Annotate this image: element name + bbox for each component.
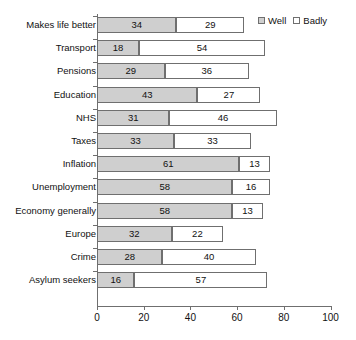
- y-axis-tick: [93, 132, 97, 133]
- chart-row: Pensions2936: [0, 63, 356, 79]
- x-axis-tick-label: 20: [138, 312, 149, 323]
- bar-segment-well: 43: [97, 87, 197, 103]
- bar-segment-badly: 22: [172, 226, 223, 242]
- chart-row: Education4327: [0, 87, 356, 103]
- category-label: Crime: [71, 249, 96, 265]
- bar-segment-badly: 54: [139, 40, 265, 56]
- x-axis-tick: [237, 306, 238, 310]
- category-label: Pensions: [57, 63, 96, 79]
- bar-segment-well: 31: [97, 110, 169, 126]
- bar-segment-well: 58: [97, 179, 232, 195]
- chart-row: Economy generally5813: [0, 203, 356, 219]
- category-label: Education: [54, 87, 96, 103]
- bar-segment-badly: 46: [169, 110, 276, 126]
- y-axis-tick: [93, 62, 97, 63]
- y-axis-line: [97, 14, 98, 306]
- bar-segment-badly: 40: [162, 249, 255, 265]
- category-label: Makes life better: [26, 17, 96, 33]
- x-axis-tick-label: 100: [322, 312, 339, 323]
- category-label: Inflation: [63, 156, 96, 172]
- bar-segment-badly: 29: [176, 17, 244, 33]
- chart-row: Taxes3333: [0, 133, 356, 149]
- x-axis-tick: [144, 306, 145, 310]
- y-axis-tick: [93, 109, 97, 110]
- bar-segment-well: 61: [97, 156, 239, 172]
- chart-row: Unemployment5816: [0, 179, 356, 195]
- chart-row: Crime2840: [0, 249, 356, 265]
- bar-segment-well: 16: [97, 272, 134, 288]
- x-axis-line: [97, 306, 331, 307]
- x-axis-tick-label: 40: [185, 312, 196, 323]
- y-axis-tick: [93, 86, 97, 87]
- stacked-bar-chart: Well Badly Makes life better3429Transpor…: [0, 0, 356, 340]
- category-label: Europe: [65, 226, 96, 242]
- bar-segment-badly: 33: [174, 133, 251, 149]
- category-label: Taxes: [71, 133, 96, 149]
- bar-segment-badly: 13: [239, 156, 269, 172]
- x-axis-tick-label: 60: [232, 312, 243, 323]
- category-label: Unemployment: [32, 179, 96, 195]
- chart-row: Asylum seekers1657: [0, 272, 356, 288]
- y-axis-tick: [93, 178, 97, 179]
- bar-segment-well: 29: [97, 63, 165, 79]
- category-label: Asylum seekers: [29, 272, 96, 288]
- bar-segment-well: 34: [97, 17, 176, 33]
- chart-row: Makes life better3429: [0, 17, 356, 33]
- chart-row: Europe3222: [0, 226, 356, 242]
- bar-segment-badly: 13: [232, 203, 262, 219]
- y-axis-tick: [93, 248, 97, 249]
- x-axis-tick: [97, 306, 98, 310]
- bar-segment-well: 32: [97, 226, 172, 242]
- category-label: Transport: [56, 40, 96, 56]
- x-axis-tick: [284, 306, 285, 310]
- category-label: Economy generally: [15, 203, 96, 219]
- bar-segment-well: 28: [97, 249, 162, 265]
- bar-segment-well: 33: [97, 133, 174, 149]
- x-axis-tick: [190, 306, 191, 310]
- y-axis-tick: [93, 39, 97, 40]
- chart-row: Transport1854: [0, 40, 356, 56]
- bar-segment-badly: 16: [232, 179, 269, 195]
- chart-row: NHS3146: [0, 110, 356, 126]
- y-axis-tick: [93, 202, 97, 203]
- y-axis-tick: [93, 271, 97, 272]
- bar-segment-well: 18: [97, 40, 139, 56]
- bar-segment-well: 58: [97, 203, 232, 219]
- x-axis-tick-label: 80: [278, 312, 289, 323]
- y-axis-tick: [93, 155, 97, 156]
- y-axis-tick: [93, 225, 97, 226]
- x-axis-tick: [331, 306, 332, 310]
- y-axis-tick: [93, 16, 97, 17]
- x-axis-tick-label: 0: [94, 312, 100, 323]
- chart-row: Inflation6113: [0, 156, 356, 172]
- bar-segment-badly: 36: [165, 63, 249, 79]
- bar-segment-badly: 27: [197, 87, 260, 103]
- bar-segment-badly: 57: [134, 272, 267, 288]
- category-label: NHS: [76, 110, 96, 126]
